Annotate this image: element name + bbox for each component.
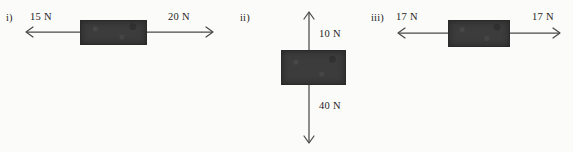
force-diagram-figure: i) 15 N 20 N ii) 10 N 40 N iii) 17 N 17 … [0,0,573,152]
diagram-label-iii: iii) [371,12,384,23]
block-i [80,20,147,45]
force-label-ii-down: 40 N [319,100,341,111]
force-label-ii-up: 10 N [319,28,341,39]
force-label-i-right: 20 N [168,11,190,22]
diagram-label-ii: ii) [240,12,250,23]
force-label-iii-right: 17 N [532,11,554,22]
force-label-i-left: 15 N [30,11,52,22]
force-label-iii-left: 17 N [396,11,418,22]
diagram-label-i: i) [6,12,13,23]
block-ii [281,50,346,85]
block-iii [448,20,510,47]
